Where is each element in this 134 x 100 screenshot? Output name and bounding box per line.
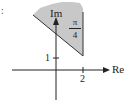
real-axis-label: Re <box>112 64 124 75</box>
diagram-canvas <box>0 0 134 100</box>
complex-plane-diagram: : Im Re 1 2 π 4 <box>0 0 134 100</box>
real-axis-arrow-icon <box>103 67 110 73</box>
imag-axis-label: Im <box>50 8 62 19</box>
real-tick-label: 2 <box>80 74 85 84</box>
angle-label: π 4 <box>69 17 81 40</box>
imag-tick-label: 1 <box>45 53 50 63</box>
angle-numerator: π <box>69 17 81 27</box>
angle-denominator: 4 <box>69 30 81 40</box>
figure-marker: : <box>1 6 4 16</box>
fraction-bar <box>69 28 81 29</box>
